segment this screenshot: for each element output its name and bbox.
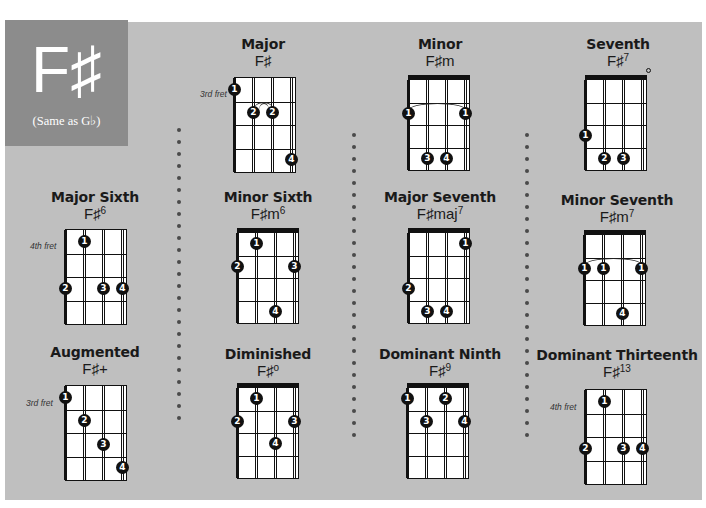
fret-label: 4th fret — [550, 402, 576, 412]
chord-symbol: F♯o — [183, 362, 353, 379]
separator-dots-2 — [352, 133, 356, 445]
string-1 — [583, 235, 586, 325]
key-box: F♯ (Same as G♭) — [5, 20, 128, 146]
finger-dot: 4 — [616, 307, 629, 320]
finger-dot: 2 — [266, 106, 279, 119]
string-4 — [464, 80, 467, 170]
string-3 — [102, 386, 105, 480]
chord-symbol: F♯m — [355, 52, 525, 69]
fretboard: 1234 — [65, 385, 127, 481]
fret-line — [66, 457, 126, 458]
finger-dot: 3 — [97, 282, 110, 295]
chord-symbol: F♯6 — [10, 205, 180, 222]
finger-dot: 2 — [231, 260, 244, 273]
string-1 — [407, 233, 410, 323]
finger-dot: 1 — [578, 262, 591, 275]
string-2 — [425, 388, 428, 478]
chord-title: Dominant Ninth — [355, 346, 525, 362]
fret-line — [585, 303, 645, 304]
fret-line — [66, 301, 126, 302]
chord-title: Minor — [355, 36, 525, 52]
chord-symbol: F♯m6 — [183, 205, 353, 222]
finger-dot: 3 — [420, 415, 433, 428]
finger-dot: 4 — [440, 152, 453, 165]
finger-dot: 2 — [598, 152, 611, 165]
fret-line — [66, 277, 126, 278]
chord-title: Minor Sixth — [183, 189, 353, 205]
chord-symbol: F♯maj7 — [355, 205, 525, 222]
finger-dot: 1 — [579, 129, 592, 142]
finger-dot: 3 — [288, 415, 301, 428]
fret-line — [408, 433, 468, 434]
separator-dots-3 — [525, 133, 529, 445]
finger-dot: 3 — [97, 438, 110, 451]
barre-arc — [409, 103, 466, 110]
fretboard: 1234 — [237, 228, 299, 324]
fret-line — [409, 125, 469, 126]
fret-line — [408, 456, 468, 457]
fretboard: 1234 — [407, 383, 469, 479]
string-4 — [293, 233, 296, 323]
chord-symbol: F♯+ — [10, 360, 180, 377]
chord-symbol: F♯ — [178, 52, 348, 69]
fret-line — [238, 411, 298, 412]
finger-dot: 1 — [598, 395, 611, 408]
finger-dot: 2 — [439, 392, 452, 405]
string-4 — [463, 388, 466, 478]
finger-dot: 1 — [635, 262, 648, 275]
finger-dot: 3 — [421, 152, 434, 165]
finger-dot: 1 — [250, 392, 263, 405]
fret-line — [66, 254, 126, 255]
fret-line — [238, 433, 298, 434]
fretboard: 123 — [585, 75, 647, 171]
chord-title: Major Seventh — [355, 189, 525, 205]
chord-title: Minor Seventh — [532, 192, 702, 208]
string-1 — [236, 388, 239, 478]
fret-line — [409, 301, 469, 302]
chord-symbol: F♯13 — [532, 363, 702, 380]
finger-dot: 3 — [617, 152, 630, 165]
fret-line — [238, 301, 298, 302]
string-1 — [236, 233, 239, 323]
finger-dot: 2 — [231, 415, 244, 428]
finger-dot: 2 — [579, 442, 592, 455]
finger-dot: 3 — [617, 442, 630, 455]
string-4 — [640, 235, 643, 325]
fret-line — [409, 278, 469, 279]
chord-title: Major Sixth — [10, 189, 180, 205]
string-1 — [64, 230, 67, 324]
string-4 — [121, 230, 124, 324]
fret-line — [586, 461, 646, 462]
fretboard: 1114 — [584, 230, 646, 326]
finger-dot: 1 — [597, 262, 610, 275]
chord-symbol: F♯9 — [355, 362, 525, 379]
finger-dot: 2 — [59, 282, 72, 295]
fret-line — [409, 256, 469, 257]
finger-dot: 4 — [116, 282, 129, 295]
fret-line — [235, 149, 295, 150]
string-3 — [271, 78, 274, 172]
finger-dot: 1 — [228, 83, 241, 96]
fret-line — [408, 411, 468, 412]
string-1 — [584, 390, 587, 484]
fret-line — [238, 256, 298, 257]
string-1 — [407, 80, 410, 170]
chord-title: Augmented — [10, 344, 180, 360]
finger-dot: 1 — [459, 107, 472, 120]
key-name: F♯ — [5, 38, 128, 102]
fret-line — [586, 148, 646, 149]
chord-title: Seventh — [533, 36, 703, 52]
barre-arc — [585, 258, 642, 265]
fretboard: 1234 — [237, 383, 299, 479]
chord-symbol: F♯7 — [533, 52, 703, 69]
finger-dot: 4 — [269, 305, 282, 318]
string-1 — [584, 80, 587, 170]
string-3 — [102, 230, 105, 324]
separator-dots-1 — [177, 128, 181, 428]
fret-line — [586, 125, 646, 126]
finger-dot: 1 — [78, 235, 91, 248]
string-2 — [602, 235, 605, 325]
string-4 — [293, 388, 296, 478]
finger-dot: 3 — [421, 305, 434, 318]
fret-line — [586, 437, 646, 438]
